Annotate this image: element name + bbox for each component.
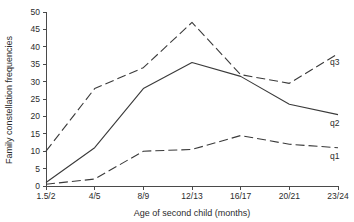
x-tick-label: 20/21 xyxy=(279,191,301,201)
x-tick-label: 4/5 xyxy=(89,191,101,201)
x-tick-label: 8/9 xyxy=(137,191,149,201)
x-tick-label: 16/17 xyxy=(230,191,252,201)
line-chart-canvas: 05101520253035404550 1.5/24/58/912/1316/… xyxy=(0,0,354,222)
series-line-q3 xyxy=(46,22,338,151)
series-lines xyxy=(46,22,338,184)
y-tick-label: 0 xyxy=(35,181,40,191)
y-tick-label: 5 xyxy=(35,164,40,174)
y-tick-label: 20 xyxy=(31,111,41,121)
y-tick-label: 10 xyxy=(31,146,41,156)
y-axis: 05101520253035404550 xyxy=(31,7,46,191)
series-label-q1: q1 xyxy=(330,151,340,161)
y-axis-title: Family constellation frequencies xyxy=(4,35,14,164)
x-tick-label: 12/13 xyxy=(181,191,203,201)
series-label-q2: q2 xyxy=(330,118,340,128)
chart-figure: 05101520253035404550 1.5/24/58/912/1316/… xyxy=(0,0,354,222)
y-tick-label: 15 xyxy=(31,129,41,139)
series-label-q3: q3 xyxy=(330,57,340,67)
y-tick-label: 45 xyxy=(31,24,41,34)
y-tick-label: 25 xyxy=(31,94,41,104)
y-tick-label: 40 xyxy=(31,42,41,52)
x-tick-label: 1.5/2 xyxy=(37,191,56,201)
x-axis: 1.5/24/58/912/1316/1720/2123/24 xyxy=(37,186,349,201)
y-tick-label: 35 xyxy=(31,59,41,69)
y-tick-label: 30 xyxy=(31,77,41,87)
y-tick-label: 50 xyxy=(31,7,41,17)
x-axis-title: Age of second child (months) xyxy=(134,208,251,218)
series-labels: q3q2q1 xyxy=(330,57,340,161)
series-line-q1 xyxy=(46,136,338,185)
x-tick-label: 23/24 xyxy=(327,191,349,201)
